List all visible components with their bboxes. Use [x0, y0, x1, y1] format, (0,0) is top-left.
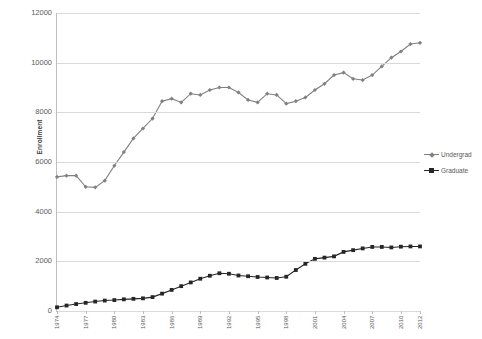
- x-tick-label: 1980: [111, 305, 117, 329]
- series-line-undergrad: [57, 43, 420, 188]
- data-point-graduate: [389, 246, 393, 250]
- data-point-graduate: [74, 302, 78, 306]
- data-point-undergrad: [294, 99, 298, 103]
- data-point-undergrad: [217, 85, 221, 89]
- gridline: [57, 63, 420, 64]
- data-point-graduate: [332, 254, 336, 258]
- gridline: [57, 162, 420, 163]
- data-point-graduate: [132, 297, 136, 301]
- data-point-graduate: [342, 250, 346, 254]
- data-point-undergrad: [64, 174, 68, 178]
- y-tick-label: 8000: [14, 108, 52, 116]
- x-tick-label: 1974: [54, 305, 60, 329]
- data-point-graduate: [160, 292, 164, 296]
- data-point-graduate: [409, 245, 413, 249]
- x-tick-label: 1977: [83, 305, 89, 329]
- x-tick-label: 1989: [197, 305, 203, 329]
- data-point-graduate: [323, 256, 327, 260]
- data-point-graduate: [103, 299, 107, 303]
- data-point-undergrad: [160, 99, 164, 103]
- data-point-graduate: [275, 276, 279, 280]
- data-point-graduate: [351, 248, 355, 252]
- data-point-graduate: [313, 257, 317, 261]
- chart-legend: UndergradGraduate: [424, 148, 482, 180]
- data-point-graduate: [93, 300, 97, 304]
- y-tick-label: 4000: [14, 208, 52, 216]
- data-point-graduate: [418, 245, 422, 249]
- x-tick-label: 2004: [341, 305, 347, 329]
- plot-area: [57, 13, 420, 311]
- data-point-graduate: [399, 245, 403, 249]
- x-tick-label: 1998: [283, 305, 289, 329]
- data-point-graduate: [112, 298, 116, 302]
- legend-item-graduate[interactable]: Graduate: [424, 164, 482, 177]
- legend-label: Graduate: [441, 167, 468, 175]
- data-point-graduate: [170, 288, 174, 292]
- data-point-graduate: [198, 277, 202, 281]
- x-tick-label: 2001: [312, 305, 318, 329]
- data-point-graduate: [227, 272, 231, 276]
- legend-item-undergrad[interactable]: Undergrad: [424, 148, 482, 161]
- x-tick-label: 2010: [398, 305, 404, 329]
- enrollment-line-chart: Enrollment 020004000600080001000012000 1…: [0, 0, 482, 339]
- data-point-undergrad: [227, 85, 231, 89]
- x-tick-label: 1992: [226, 305, 232, 329]
- y-tick-label: 10000: [14, 59, 52, 67]
- data-point-graduate: [370, 245, 374, 249]
- x-tick-label: 2012: [417, 305, 423, 329]
- data-point-graduate: [237, 274, 241, 278]
- data-point-undergrad: [170, 97, 174, 101]
- legend-swatch-icon: [424, 166, 439, 175]
- legend-swatch-icon: [424, 150, 439, 159]
- gridline: [57, 212, 420, 213]
- data-point-graduate: [256, 275, 260, 279]
- data-point-graduate: [65, 304, 69, 308]
- gridline: [57, 112, 420, 113]
- data-point-graduate: [361, 247, 365, 251]
- data-point-graduate: [122, 297, 126, 301]
- legend-label: Undergrad: [441, 151, 472, 159]
- data-point-graduate: [294, 268, 298, 272]
- data-point-graduate: [208, 274, 212, 278]
- data-point-graduate: [151, 295, 155, 299]
- data-point-undergrad: [208, 88, 212, 92]
- data-point-undergrad: [361, 78, 365, 82]
- x-tick-label: 1995: [255, 305, 261, 329]
- y-tick-label: 2000: [14, 257, 52, 265]
- data-point-graduate: [141, 296, 145, 300]
- gridline: [57, 261, 420, 262]
- x-tick-label: 1986: [169, 305, 175, 329]
- data-point-graduate: [284, 275, 288, 279]
- data-point-graduate: [380, 245, 384, 249]
- data-point-undergrad: [198, 93, 202, 97]
- y-tick-label: 6000: [14, 158, 52, 166]
- y-axis-tick-labels: 020004000600080001000012000: [14, 0, 52, 339]
- data-point-graduate: [179, 284, 183, 288]
- x-tick-label: 1983: [140, 305, 146, 329]
- x-tick-label: 2007: [369, 305, 375, 329]
- data-point-graduate: [265, 276, 269, 280]
- x-axis-tick-labels: 1974197719801983198619891992199519982001…: [57, 312, 420, 339]
- gridline: [57, 13, 420, 14]
- y-tick-label: 0: [14, 307, 52, 315]
- data-point-undergrad: [418, 41, 422, 45]
- data-point-graduate: [189, 281, 193, 285]
- data-point-graduate: [246, 274, 250, 278]
- y-tick-label: 12000: [14, 9, 52, 17]
- data-point-graduate: [303, 262, 307, 266]
- data-point-graduate: [217, 271, 221, 275]
